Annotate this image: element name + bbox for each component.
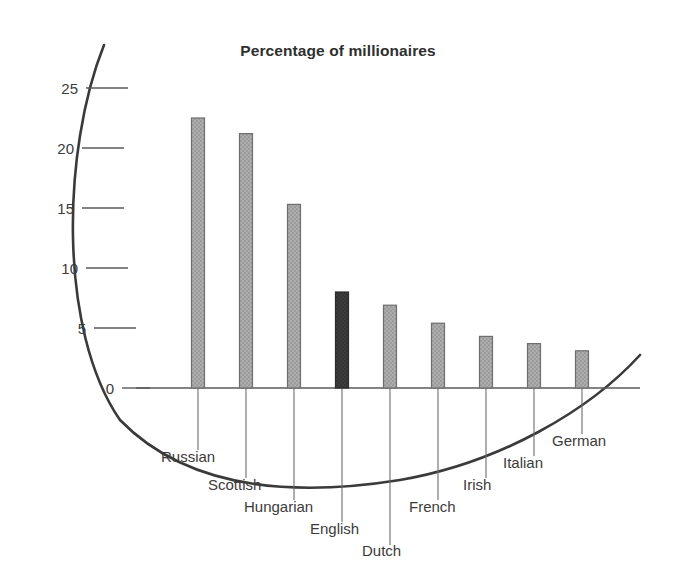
y-axis-label-10: 10 [24, 260, 78, 277]
chart-container: Percentage of millionaires [0, 0, 676, 567]
bar-english[interactable] [336, 292, 349, 388]
category-label-english: English [310, 520, 359, 537]
chart-canvas [0, 0, 676, 567]
bar-scottish[interactable] [240, 134, 253, 388]
bar-dutch[interactable] [384, 305, 397, 388]
y-axis-label-20: 20 [20, 140, 74, 157]
bar-french[interactable] [432, 323, 445, 388]
category-label-scottish: Scottish [208, 476, 261, 493]
category-label-hungarian: Hungarian [244, 498, 313, 515]
category-label-german: German [552, 432, 606, 449]
y-axis-label-25: 25 [24, 80, 78, 97]
y-axis-label-0: 0 [60, 380, 114, 397]
y-axis-label-5: 5 [32, 320, 86, 337]
category-label-irish: Irish [463, 476, 491, 493]
y-axis-label-15: 15 [20, 200, 74, 217]
bar-italian[interactable] [528, 344, 541, 388]
category-label-russian: Russian [161, 448, 215, 465]
bar-hungarian[interactable] [288, 204, 301, 388]
bar-russian[interactable] [192, 118, 205, 388]
bar-german[interactable] [576, 351, 589, 388]
bar-irish[interactable] [480, 336, 493, 388]
y-axis-ticks [82, 88, 150, 388]
category-label-italian: Italian [503, 454, 543, 471]
category-label-dutch: Dutch [362, 542, 401, 559]
bar-series [192, 118, 589, 388]
category-label-french: French [409, 498, 456, 515]
curved-axis-arc [73, 45, 640, 488]
